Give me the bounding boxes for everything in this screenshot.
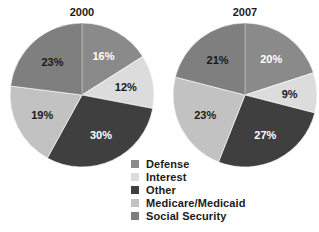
- legend-item-other: Other: [131, 183, 246, 196]
- pie-chart-2000: 16%12%30%19%23%: [10, 23, 154, 167]
- legend-item-interest: Interest: [131, 170, 246, 183]
- legend-label: Social Security: [146, 210, 226, 222]
- legend-label: Other: [146, 184, 176, 196]
- legend-swatch: [131, 173, 139, 181]
- slice-label: 21%: [207, 54, 229, 66]
- legend-item-social-security: Social Security: [131, 209, 246, 222]
- slice-label: 23%: [41, 56, 63, 68]
- pie-chart-2007: 20%9%27%23%21%: [173, 23, 317, 167]
- slice-label: 20%: [260, 53, 282, 65]
- legend-item-defense: Defense: [131, 157, 246, 170]
- legend-label: Defense: [146, 158, 190, 170]
- slice-label: 23%: [194, 109, 216, 121]
- slice-label: 12%: [115, 81, 137, 93]
- slice-label: 27%: [254, 129, 276, 141]
- legend: Defense Interest Other Medicare/Medicaid…: [131, 157, 246, 222]
- legend-swatch: [131, 199, 139, 207]
- legend-label: Medicare/Medicaid: [146, 197, 246, 209]
- slice-label: 9%: [282, 88, 298, 100]
- legend-swatch: [131, 160, 139, 168]
- legend-swatch: [131, 186, 139, 194]
- legend-swatch: [131, 212, 139, 220]
- legend-item-medicare-medicaid: Medicare/Medicaid: [131, 196, 246, 209]
- slice-label: 30%: [90, 129, 112, 141]
- slice-label: 19%: [31, 109, 53, 121]
- slice-label: 16%: [92, 50, 114, 62]
- legend-label: Interest: [146, 171, 187, 183]
